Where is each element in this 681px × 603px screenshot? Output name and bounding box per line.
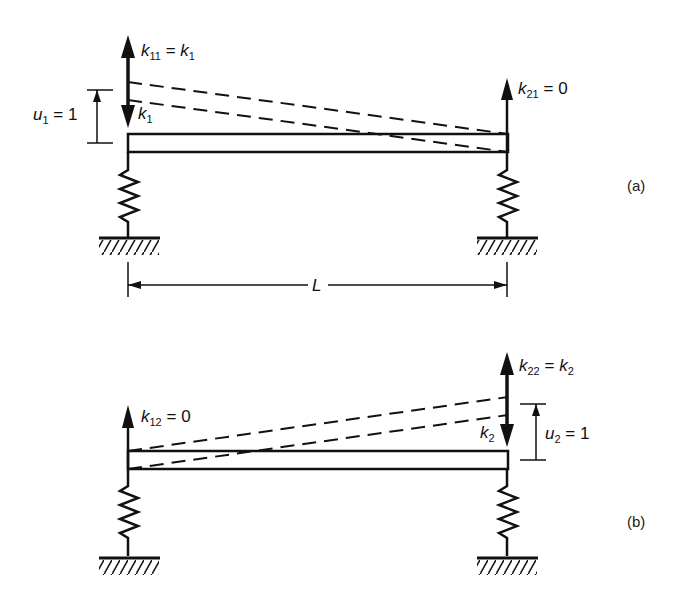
label-k22-eq: = xyxy=(544,356,554,375)
panel-tag-a: (a) xyxy=(627,177,645,194)
label-k11-eq: = xyxy=(166,41,176,60)
label-k11-rhs-sub: 1 xyxy=(189,50,195,62)
spring-right-a-icon xyxy=(499,152,517,238)
label-k2-symbol: k xyxy=(480,423,489,442)
label-k21-eq: = xyxy=(543,79,553,98)
ground-right-b-icon xyxy=(477,558,538,575)
force-arrow-k22-icon xyxy=(500,352,514,447)
ground-left-a-icon xyxy=(99,238,160,255)
label-k1-reaction: k1 xyxy=(138,105,153,125)
label-k22-rhs-sub: 2 xyxy=(568,365,574,377)
label-k12: k12 = 0 xyxy=(141,408,191,428)
label-k22-symbol: k xyxy=(519,356,528,375)
panel-a xyxy=(87,35,538,297)
panel-b xyxy=(99,352,546,575)
label-k11-rhs: k xyxy=(180,41,189,60)
label-k1-symbol: k xyxy=(138,104,147,123)
ground-left-b-icon xyxy=(99,558,160,575)
ground-right-a-icon xyxy=(477,238,538,255)
label-k12-symbol: k xyxy=(141,407,150,426)
label-k12-eq: = xyxy=(166,407,176,426)
label-u1: u1 = 1 xyxy=(33,106,77,126)
label-k11-sub: 11 xyxy=(150,50,161,62)
label-span-L: L xyxy=(312,277,321,294)
label-k11: k11 = k1 xyxy=(141,42,195,62)
label-k21: k21 = 0 xyxy=(518,80,568,100)
label-k11-symbol: k xyxy=(141,41,150,60)
label-k2-reaction: k2 xyxy=(480,424,495,444)
stiffness-diagram xyxy=(0,0,681,603)
label-k21-symbol: k xyxy=(518,79,527,98)
label-u2-value: 1 xyxy=(580,424,589,443)
label-k12-rhs: 0 xyxy=(181,407,190,426)
label-k2-sub: 2 xyxy=(489,432,495,444)
label-k12-sub: 12 xyxy=(150,416,162,428)
spring-right-b-icon xyxy=(499,469,517,556)
force-arrow-k11-icon xyxy=(121,35,135,128)
panel-tag-b: (b) xyxy=(627,513,645,530)
beam-a xyxy=(128,134,508,152)
label-u1-value: 1 xyxy=(68,105,77,124)
label-u1-sub: 1 xyxy=(42,114,48,126)
label-L: L xyxy=(312,276,321,295)
label-k22-rhs: k xyxy=(559,356,568,375)
label-u1-eq: = xyxy=(53,105,63,124)
label-u2: u2 = 1 xyxy=(545,425,589,445)
label-k22-sub: 22 xyxy=(528,365,540,377)
label-k21-rhs: 0 xyxy=(558,79,567,98)
deflected-shape-a xyxy=(128,82,508,152)
spring-left-a-icon xyxy=(120,152,138,238)
displacement-dimension-u2 xyxy=(520,404,546,460)
spring-left-b-icon xyxy=(120,469,138,556)
label-u2-sub: 2 xyxy=(554,433,560,445)
force-arrow-k12-icon xyxy=(122,405,134,469)
label-u2-eq: = xyxy=(565,424,575,443)
label-k21-sub: 21 xyxy=(527,88,539,100)
displacement-dimension-u1 xyxy=(87,90,113,143)
force-arrow-k21-icon xyxy=(501,78,513,152)
label-k1-sub: 1 xyxy=(147,113,153,125)
label-k22: k22 = k2 xyxy=(519,357,574,377)
